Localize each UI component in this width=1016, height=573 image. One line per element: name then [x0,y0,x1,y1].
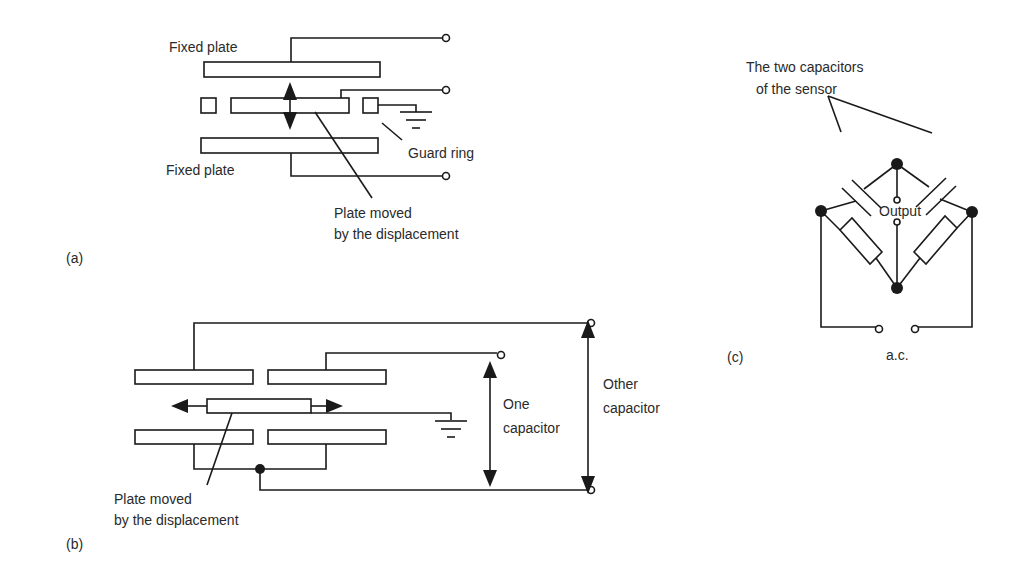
ground-icon [435,421,467,437]
guard-ring-left [201,98,216,113]
panel-c-label: (c) [727,349,743,365]
sensor-caps-label-line1: The two capacitors [746,59,864,75]
wire-moving-plate [341,90,443,98]
one-capacitor-arrow-icon [483,361,497,487]
ac-supply-label: a.c. [886,347,909,363]
moving-plate-b-leader [207,413,232,485]
terminal-top [443,35,450,42]
wire-guard-ground [378,105,416,112]
bottom-plate-right [268,430,386,444]
sensor-caps-label-line2: of the sensor [756,81,837,97]
wire-bottom-common [260,469,588,490]
wire-top-left-plate [194,323,588,370]
one-capacitor-label-line2: capacitor [503,420,560,436]
output-label: Output [879,203,921,219]
guard-ring-leader [382,123,402,140]
wire-moving-plate-ground [311,413,451,420]
resistor-left-icon [821,211,897,288]
sensor-leader-left [828,96,841,132]
wire-top-plate [291,38,443,62]
panel-a-label: (a) [66,250,83,266]
moving-plate-leader [315,112,372,198]
moving-plate-b-label-line2: by the displacement [114,512,239,528]
fixed-plate-bottom-label: Fixed plate [166,162,235,178]
resistor-right-icon [897,212,972,288]
bottom-plate-left [135,430,253,444]
moving-plate-b [207,399,311,413]
node-bottom [891,282,903,294]
fixed-plate-top-label: Fixed plate [169,39,238,55]
capacitive-displacement-sensor-diagram: Fixed plate Fixed plate Guard ring Plate… [0,0,1016,573]
fixed-plate-top [204,62,380,77]
other-capacitor-arrow-icon [581,320,595,494]
terminal-ac-left [876,326,883,333]
top-plate-right [268,370,386,384]
other-capacitor-label-line2: capacitor [603,400,660,416]
moving-plate-label-line2: by the displacement [334,226,459,242]
fixed-plate-bottom [201,138,378,153]
terminal-ac-right [912,326,919,333]
terminal-middle [443,87,450,94]
node-top [891,158,903,170]
terminal-bottom [443,173,450,180]
ground-icon [400,112,432,128]
other-capacitor-label-line1: Other [603,376,638,392]
panel-c: The two capacitors of the sensor Output … [727,59,978,365]
panel-a: Fixed plate Fixed plate Guard ring Plate… [66,35,474,267]
moving-plate-b-label-line1: Plate moved [114,491,192,507]
terminal-one-top [498,352,505,359]
guard-ring-right [363,98,378,113]
wire-top-right-plate [326,353,497,370]
panel-b: One capacitor Other capacitor Plate move… [66,320,660,553]
panel-b-label: (b) [66,536,83,552]
guard-ring-label: Guard ring [408,145,474,161]
terminal-output-bottom [894,219,900,225]
one-capacitor-label-line1: One [503,396,530,412]
top-plate-left [135,370,253,384]
moving-plate-label-line1: Plate moved [334,205,412,221]
sensor-leader-right [828,96,932,133]
